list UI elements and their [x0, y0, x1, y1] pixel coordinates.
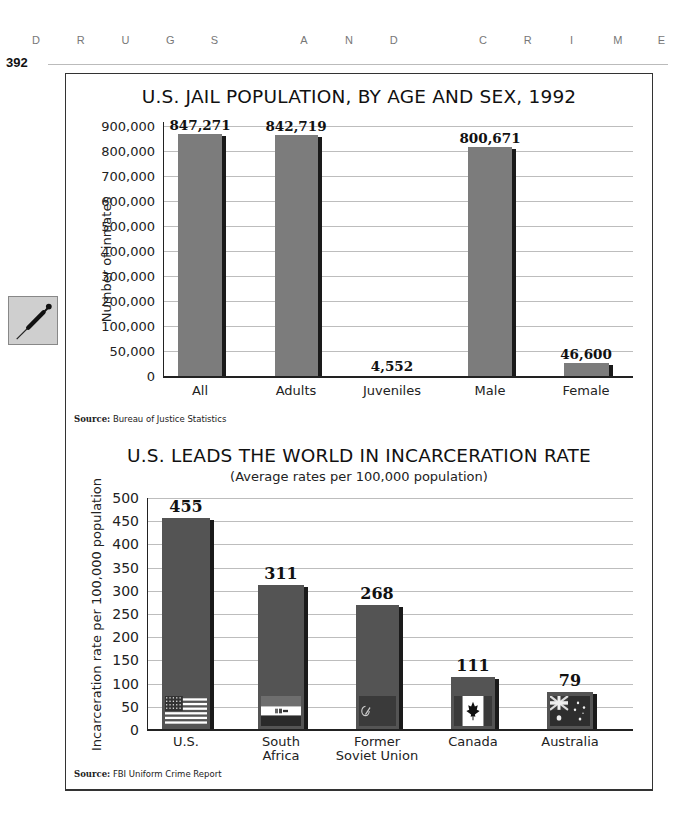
x-label-australia: Australia [510, 735, 630, 749]
y-tick-label: 100,000 [101, 319, 155, 334]
gridline [163, 251, 633, 252]
running-head-letter: N [345, 34, 351, 50]
y-tick-label: 900,000 [101, 119, 155, 134]
bar-shadow [318, 137, 322, 376]
y-axis-line [163, 122, 164, 378]
y-tick-label: 300,000 [101, 269, 155, 284]
gridline [163, 301, 633, 302]
running-head-letter: M [613, 34, 619, 50]
y-tick-label: 300 [112, 583, 139, 599]
y-tick-label: 50 [121, 699, 139, 715]
running-head-letter: R [77, 34, 83, 50]
chart2-title: U.S. LEADS THE WORLD IN INCARCERATION RA… [66, 445, 652, 466]
soviet-flag-icon [359, 696, 396, 726]
header-rule [48, 64, 668, 65]
y-tick-label: 450 [112, 513, 139, 529]
value-label-south-africa: 311 [238, 564, 324, 583]
y-tick-label: 800,000 [101, 144, 155, 159]
x-label-female: Female [526, 384, 646, 398]
chart2-y-axis-label: Incarceration rate per 100,000 populatio… [89, 470, 104, 760]
gridline [163, 176, 633, 177]
bar-south-africa [258, 585, 304, 729]
chart2-source: Source: FBI Uniform Crime Report [74, 769, 222, 779]
bar-shadow [609, 365, 613, 376]
bar-shadow [304, 587, 308, 729]
value-label-australia: 79 [527, 671, 613, 690]
running-head: DRUGS AND CRIME [32, 34, 676, 50]
x-axis-line [163, 376, 633, 378]
bar-shadow [495, 679, 499, 729]
y-tick-label: 50,000 [110, 344, 156, 359]
gridline [163, 276, 633, 277]
y-axis-line [147, 498, 148, 730]
bar-shadow [399, 607, 403, 729]
running-head-letter: S [211, 34, 217, 50]
y-tick-label: 0 [147, 369, 155, 384]
gridline [147, 521, 633, 522]
x-label-line: Soviet Union [317, 749, 437, 763]
x-label-line: Australia [510, 735, 630, 749]
y-tick-label: 600,000 [101, 194, 155, 209]
y-tick-label: 400,000 [101, 244, 155, 259]
bar-female [564, 363, 609, 376]
value-label-adults: 842,719 [255, 118, 338, 134]
value-label-u-s-: 455 [142, 497, 230, 516]
bar-australia [547, 692, 593, 729]
value-label-female: 46,600 [544, 346, 629, 362]
chart1-plot-area: 050,000100,000200,000300,000400,000500,0… [163, 122, 633, 378]
running-head-letter: D [32, 34, 38, 50]
y-tick-label: 350 [112, 560, 139, 576]
canada-flag-icon [454, 696, 492, 726]
y-tick-label: 200 [112, 629, 139, 645]
running-head-letter: I [568, 34, 574, 50]
bar-shadow [512, 149, 516, 376]
bar-former-soviet-union [356, 605, 399, 729]
x-axis-line [147, 729, 633, 731]
figure-frame: U.S. JAIL POPULATION, BY AGE AND SEX, 19… [65, 73, 653, 791]
bar-shadow [593, 694, 597, 729]
gridline [163, 151, 633, 152]
y-tick-label: 500 [112, 490, 139, 506]
bar-u-s- [162, 518, 210, 729]
y-tick-label: 250 [112, 606, 139, 622]
chart2-plot-area: 0501001502002503003504004505004553112681… [147, 498, 633, 730]
y-tick-label: 200,000 [101, 294, 155, 309]
bar-all [178, 134, 222, 376]
bar-canada [451, 677, 495, 729]
bar-adults [275, 135, 318, 376]
running-head-letter: A [300, 34, 306, 50]
value-label-all: 847,271 [158, 117, 242, 133]
value-label-male: 800,671 [448, 130, 532, 146]
value-label-former-soviet-union: 268 [336, 584, 419, 603]
y-tick-label: 400 [112, 536, 139, 552]
gridline [163, 226, 633, 227]
running-head-letter: U [121, 34, 127, 50]
y-tick-label: 700,000 [101, 169, 155, 184]
page-number: 392 [6, 55, 28, 70]
bar-male [468, 147, 512, 376]
australia-flag-icon [550, 696, 590, 726]
gridline [163, 326, 633, 327]
running-head-letter [256, 34, 262, 50]
chart1-title: U.S. JAIL POPULATION, BY AGE AND SEX, 19… [66, 86, 652, 107]
running-head-letter: E [658, 34, 664, 50]
gridline [147, 544, 633, 545]
value-label-juveniles: 4,552 [350, 358, 434, 374]
running-head-letter: D [390, 34, 396, 50]
y-tick-label: 150 [112, 652, 139, 668]
bar-shadow [222, 136, 226, 376]
value-label-canada: 111 [431, 656, 515, 675]
y-tick-label: 100 [112, 676, 139, 692]
chart2-subtitle: (Average rates per 100,000 population) [66, 469, 652, 484]
y-tick-label: 500,000 [101, 219, 155, 234]
running-head-letter: R [524, 34, 530, 50]
syringe-icon [8, 296, 58, 345]
gridline [147, 568, 633, 569]
running-head-letter: G [166, 34, 172, 50]
chart1-source: Source: Bureau of Justice Statistics [74, 414, 226, 424]
bar-shadow [210, 520, 214, 729]
running-head-letter [434, 34, 440, 50]
running-head-letter: C [479, 34, 485, 50]
south-africa-flag-icon [261, 696, 301, 726]
us-flag-icon [165, 696, 207, 726]
